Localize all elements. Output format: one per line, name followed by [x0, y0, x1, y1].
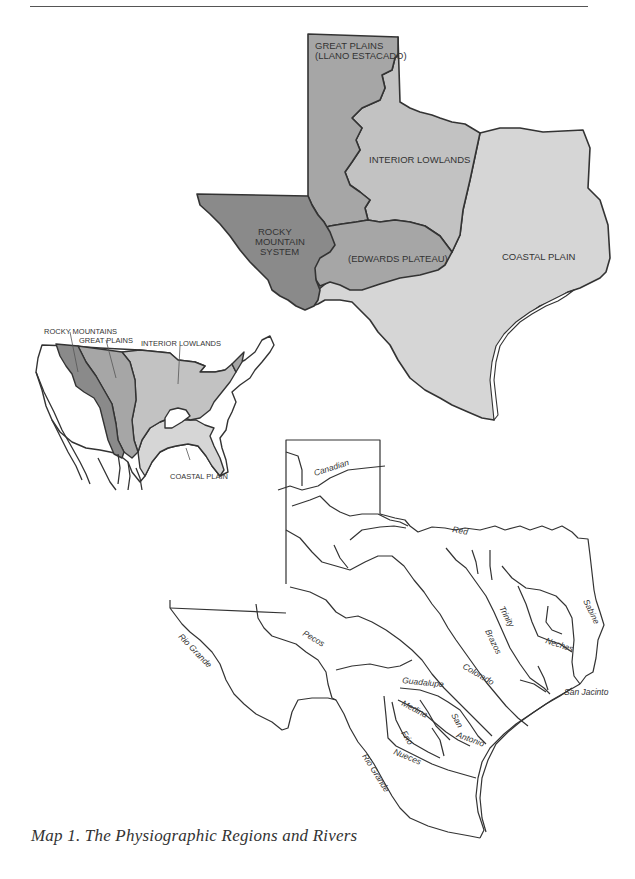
- river-pecos: [256, 604, 336, 700]
- label-rio-grande-lower: Rio Grande: [360, 752, 392, 794]
- label-colorado: Colorado: [461, 661, 496, 687]
- label-neches: Neches: [544, 635, 575, 654]
- label-guadalupe: Guadalupe: [402, 675, 445, 689]
- river-trinity-fork: [472, 550, 492, 580]
- maps-figure: GREAT PLAINS (LLANO ESTACADO) INTERIOR L…: [0, 0, 635, 879]
- texas-border-west: [170, 608, 286, 613]
- texas-coast: [476, 684, 580, 838]
- texas-coast-islands: [480, 688, 572, 832]
- label-brazos: Brazos: [483, 627, 504, 656]
- river-brazos-fork: [290, 545, 386, 630]
- label-us-coastal: COASTAL PLAIN: [170, 472, 228, 481]
- river-labels: Canadian Red Sabine Trinity Neches Brazo…: [177, 457, 609, 794]
- river-san-antonio: [420, 700, 450, 740]
- river-red-upper: [292, 496, 408, 526]
- river-rio-grande: [170, 600, 480, 838]
- label-us-rocky: ROCKY MOUNTAINS: [44, 327, 117, 336]
- label-pecos: Pecos: [301, 628, 327, 649]
- river-trinity: [446, 548, 550, 694]
- river-colorado-upper: [336, 660, 412, 670]
- label-medina: Medina: [400, 698, 430, 720]
- label-coastal-plain: COASTAL PLAIN: [502, 251, 576, 262]
- label-antonio: Antonio: [454, 729, 486, 749]
- us-inset-map: [36, 332, 274, 490]
- label-us-interior: INTERIOR LOWLANDS: [141, 339, 221, 348]
- label-rocky-3: SYSTEM: [260, 246, 299, 257]
- label-rio-grande-upper: Rio Grande: [177, 631, 215, 669]
- texas-rivers-map: [170, 440, 604, 838]
- river-neches-fork2: [546, 606, 562, 634]
- label-nueces: Nueces: [392, 747, 423, 767]
- label-great-plains-2: (LLANO ESTACADO): [315, 50, 407, 61]
- label-san-jacinto: San Jacinto: [564, 687, 609, 697]
- label-canadian: Canadian: [313, 457, 351, 478]
- label-red: Red: [452, 524, 469, 537]
- label-edwards-plateau: (EDWARDS PLATEAU): [348, 253, 448, 264]
- label-sabine: Sabine: [581, 597, 602, 625]
- figure-caption: Map 1. The Physiographic Regions and Riv…: [31, 826, 357, 846]
- river-red-fork: [350, 526, 406, 540]
- red-river-boundary: [380, 514, 596, 600]
- label-interior-lowlands: INTERIOR LOWLANDS: [369, 154, 470, 165]
- label-us-great-plains: GREAT PLAINS: [79, 336, 133, 345]
